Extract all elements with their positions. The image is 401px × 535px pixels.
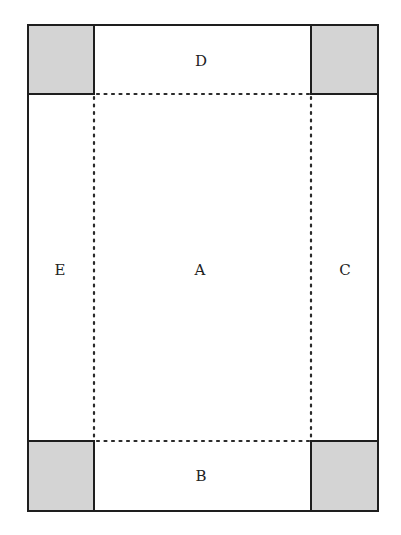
corner-square-top-left bbox=[28, 25, 94, 94]
corner-square-bottom-right bbox=[311, 441, 378, 511]
region-label-d: D bbox=[195, 52, 207, 70]
corner-square-bottom-left bbox=[28, 441, 94, 511]
region-label-a: A bbox=[194, 261, 206, 279]
corner-square-top-right bbox=[311, 25, 378, 94]
region-label-c: C bbox=[339, 261, 350, 279]
region-label-e: E bbox=[55, 261, 66, 279]
region-label-b: B bbox=[195, 467, 206, 485]
box-net-diagram: D A E C B bbox=[0, 0, 401, 535]
